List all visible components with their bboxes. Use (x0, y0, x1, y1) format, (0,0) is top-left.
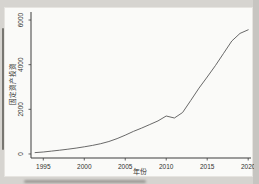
plot-area: 1995200020052010201520200200040006000 (18, 12, 255, 170)
bottom-edge-artifact-line (24, 180, 146, 183)
x-tick-label: 2005 (118, 163, 133, 170)
data-line (35, 30, 248, 153)
y-tick-label: 0 (18, 152, 25, 156)
x-tick-label: 1995 (36, 163, 51, 170)
x-tick-label: 2015 (200, 163, 215, 170)
x-tick-label: 2000 (77, 163, 92, 170)
x-tick-label: 2020 (241, 163, 254, 170)
chart-canvas: 1995200020052010201520200200040006000 年份… (5, 8, 254, 178)
screenshot-root: 1995200020052010201520200200040006000 年份… (0, 0, 259, 184)
x-tick-label: 2010 (159, 163, 174, 170)
y-axis-label: 固定资产投资 (8, 63, 17, 105)
x-axis-label: 年份 (133, 167, 147, 176)
chart-figure: 1995200020052010201520200200040006000 年份… (4, 7, 253, 177)
y-tick-label: 4000 (18, 57, 25, 72)
left-edge-artifact-line (2, 28, 4, 150)
y-tick-label: 6000 (18, 12, 25, 27)
y-tick-label: 2000 (18, 102, 25, 117)
